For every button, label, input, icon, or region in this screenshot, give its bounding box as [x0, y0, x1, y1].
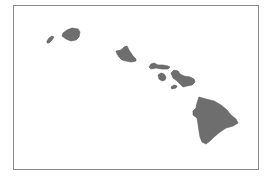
hawaii-map: [0, 0, 275, 180]
island-molokai: [149, 63, 170, 69]
island-oahu: [116, 46, 136, 62]
island-hawaii: [193, 97, 238, 144]
island-kahoolawe: [171, 85, 177, 89]
island-lanai: [158, 73, 166, 81]
island-kauai: [62, 28, 80, 41]
island-niihau: [47, 36, 54, 43]
island-maui: [171, 70, 195, 87]
